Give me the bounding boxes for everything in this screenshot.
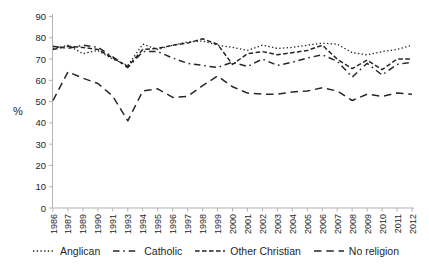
legend-line-sample xyxy=(195,247,225,255)
x-tick-label: 1994 xyxy=(138,214,148,234)
x-tick-label: 1986 xyxy=(49,214,59,234)
legend-label: Anglican xyxy=(60,245,100,257)
x-tick-label: 1998 xyxy=(198,214,208,234)
legend-item-anglican: Anglican xyxy=(33,245,100,257)
x-tick-label: 2002 xyxy=(258,214,268,234)
legend: AnglicanCatholicOther ChristianNo religi… xyxy=(33,245,429,257)
legend-item-other-christian: Other Christian xyxy=(195,245,301,257)
x-tick-label: 1995 xyxy=(153,214,163,234)
x-tick-label: 2000 xyxy=(228,214,238,234)
x-tick-label: 2005 xyxy=(303,214,313,234)
y-tick-label: 70 xyxy=(35,54,46,65)
y-tick-label: 0 xyxy=(41,203,46,214)
y-tick-label: 30 xyxy=(35,139,46,150)
x-tick-label: 1997 xyxy=(183,214,193,234)
x-tick-label: 2006 xyxy=(318,214,328,234)
legend-line-sample xyxy=(113,247,139,255)
x-tick-label: 1990 xyxy=(93,214,103,234)
legend-item-no-religion: No religion xyxy=(314,245,399,257)
legend-line-sample xyxy=(33,247,55,255)
y-axis-label: % xyxy=(13,105,23,117)
x-tick-label: 1993 xyxy=(123,214,133,234)
legend-line-sample xyxy=(314,247,344,255)
legend-label: Other Christian xyxy=(230,245,301,257)
y-tick-label: 10 xyxy=(35,181,46,192)
x-tick-label: 2001 xyxy=(243,214,253,234)
y-tick-label: 80 xyxy=(35,32,46,43)
line-chart-canvas: 0102030405060708090198619871989199019911… xyxy=(0,0,429,270)
y-tick-label: 60 xyxy=(35,75,46,86)
series-line-no-religion xyxy=(53,72,412,121)
legend-label: No religion xyxy=(349,245,399,257)
series-line-other-christian xyxy=(53,39,412,70)
x-tick-label: 2010 xyxy=(378,214,388,234)
y-tick-label: 40 xyxy=(35,117,46,128)
x-tick-label: 1989 xyxy=(78,214,88,234)
x-tick-label: 2009 xyxy=(363,214,373,234)
y-tick-label: 50 xyxy=(35,96,46,107)
x-tick-label: 2008 xyxy=(348,214,358,234)
chart-container: 0102030405060708090198619871989199019911… xyxy=(0,0,429,270)
y-tick-label: 20 xyxy=(35,160,46,171)
x-tick-label: 1991 xyxy=(108,214,118,234)
x-tick-label: 2007 xyxy=(333,214,343,234)
x-tick-label: 1999 xyxy=(213,214,223,234)
x-tick-label: 2003 xyxy=(273,214,283,234)
series-line-anglican xyxy=(53,41,412,65)
x-tick-label: 1987 xyxy=(63,214,73,234)
x-tick-label: 2004 xyxy=(288,214,298,234)
legend-label: Catholic xyxy=(144,245,182,257)
series-line-catholic xyxy=(53,45,412,77)
y-tick-label: 90 xyxy=(35,11,46,22)
x-tick-label: 1996 xyxy=(168,214,178,234)
legend-item-catholic: Catholic xyxy=(113,245,182,257)
x-tick-label: 2011 xyxy=(393,214,403,233)
x-tick-label: 2012 xyxy=(408,214,418,234)
